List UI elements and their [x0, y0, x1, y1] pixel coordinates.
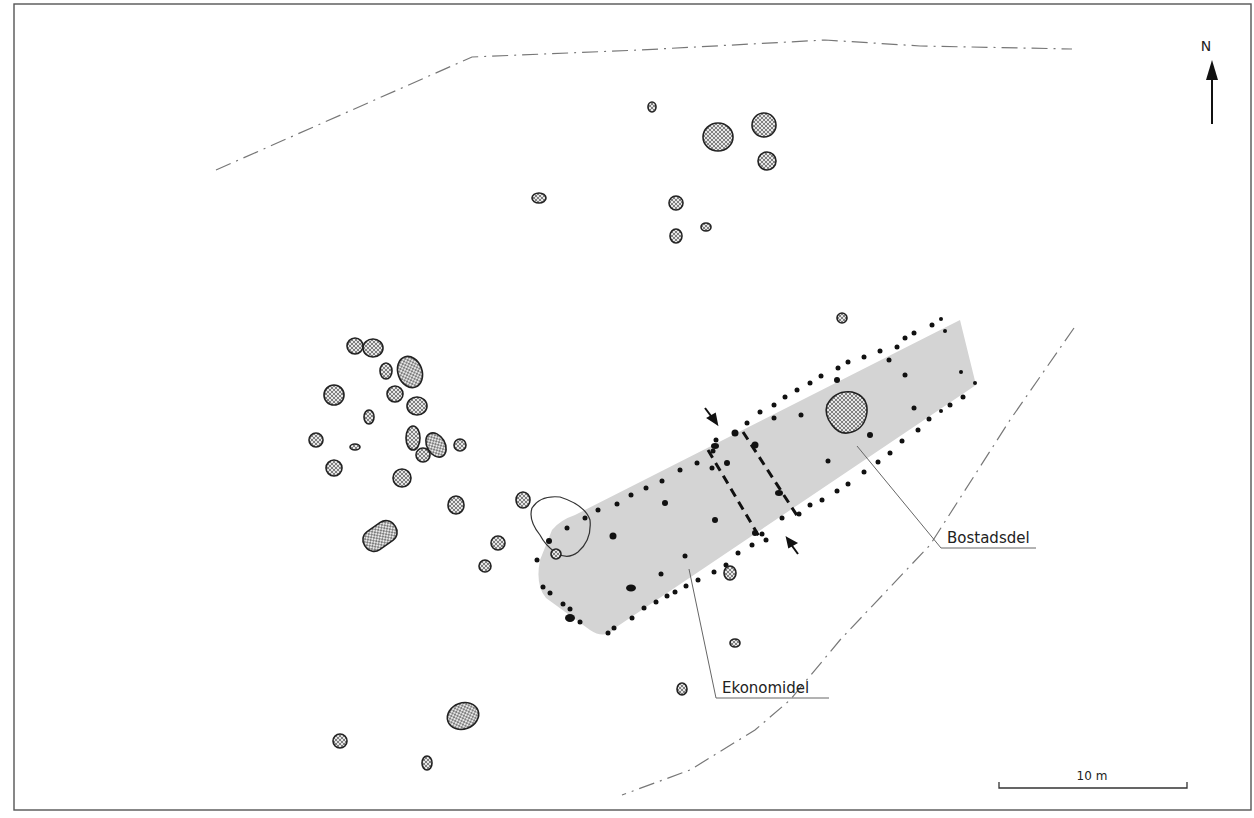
label-text-bostadsdel: Bostadsdel: [947, 529, 1030, 547]
partition-arrow-south: [787, 538, 798, 554]
north-arrow: N: [1201, 38, 1218, 124]
label-bostadsdel: Bostadsdel: [857, 446, 1036, 548]
site-plan-map: Bostadsdel Ekonomidel N 10 m: [0, 0, 1254, 818]
stones-west-cluster: [309, 338, 561, 572]
longhouse-floor: [538, 320, 976, 635]
label-ekonomidel: Ekonomidel: [689, 569, 829, 698]
scale-bar-label: 10 m: [1077, 769, 1108, 783]
north-arrow-icon: [1206, 60, 1218, 80]
map-frame: [14, 4, 1251, 810]
partition-arrow-north: [705, 408, 717, 424]
scale-bar: 10 m: [999, 769, 1187, 788]
north-label: N: [1201, 38, 1211, 54]
stones-north-cluster: [532, 102, 776, 243]
longhouse: [531, 317, 977, 636]
boundary-line-north: [216, 40, 1072, 170]
label-text-ekonomidel: Ekonomidel: [722, 679, 809, 697]
